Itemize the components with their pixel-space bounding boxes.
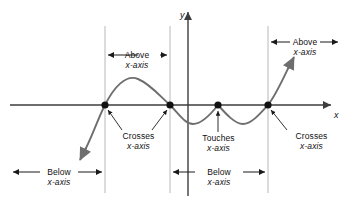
label-above-left: Above x-axis <box>112 50 162 70</box>
label-crosses-right-line2: x-axis <box>300 141 323 151</box>
crosses-right-leader <box>271 110 287 130</box>
label-below-left-line1: Below <box>47 167 71 177</box>
root-point-crosses-2 <box>166 101 173 108</box>
label-above-left-line1: Above <box>125 50 150 60</box>
label-crosses-left: Crosses x-axis <box>111 131 166 151</box>
label-below-right: Below x-axis <box>193 167 245 187</box>
curve-arrow-lower-left <box>80 148 86 160</box>
label-below-right-line2: x-axis <box>208 177 231 187</box>
label-above-right-line1: Above <box>293 37 318 47</box>
label-touches-line2: x-axis <box>207 143 230 153</box>
label-above-right: Above x-axis <box>280 37 330 57</box>
label-crosses-left-line1: Crosses <box>123 131 155 141</box>
root-point-crosses-1 <box>101 101 108 108</box>
root-point-touches <box>214 101 221 108</box>
label-below-left: Below x-axis <box>33 167 85 187</box>
root-point-crosses-3 <box>264 101 271 108</box>
label-above-left-line2: x-axis <box>126 60 149 70</box>
x-axis-label: x <box>334 110 339 120</box>
crosses-left-leaders <box>108 110 167 130</box>
y-axis-label: y <box>180 10 185 20</box>
label-crosses-right: Crosses x-axis <box>284 131 339 151</box>
label-crosses-right-line1: Crosses <box>296 131 328 141</box>
polynomial-axis-diagram: y x Above x-axis Above x-axis Below x-ax… <box>0 0 347 207</box>
label-above-right-line2: x-axis <box>294 47 317 57</box>
label-below-left-line2: x-axis <box>48 177 71 187</box>
curve-arrow-upper-right <box>288 57 294 69</box>
label-crosses-left-line2: x-axis <box>127 141 150 151</box>
label-touches-line1: Touches <box>202 133 234 143</box>
label-below-right-line1: Below <box>207 167 231 177</box>
label-touches: Touches x-axis <box>191 133 246 153</box>
